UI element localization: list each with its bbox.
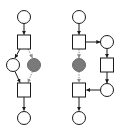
place-marked-gray-icon xyxy=(28,59,41,72)
transition-top-icon xyxy=(18,35,31,49)
arc-left-place-to-bottom-transition xyxy=(15,72,20,83)
right-net xyxy=(73,11,114,125)
petri-net-diagram xyxy=(0,0,125,132)
place-right-bottom-icon xyxy=(101,84,114,97)
place-marked-gray-icon xyxy=(73,59,86,72)
place-left-icon xyxy=(7,59,20,72)
arc-top-transition-to-gray-place xyxy=(28,49,33,58)
transition-bottom-icon xyxy=(73,83,86,97)
transition-bottom-icon xyxy=(18,83,31,97)
transition-right-icon xyxy=(101,58,114,72)
place-bottom-icon xyxy=(73,112,86,125)
arc-gray-place-to-bottom-transition xyxy=(28,72,33,83)
place-top-icon xyxy=(73,11,86,24)
place-bottom-icon xyxy=(18,112,31,125)
transition-top-icon xyxy=(73,35,86,49)
place-top-icon xyxy=(18,11,31,24)
arc-top-transition-to-left-place xyxy=(15,49,20,58)
left-net xyxy=(7,11,41,125)
place-right-top-icon xyxy=(101,36,114,49)
